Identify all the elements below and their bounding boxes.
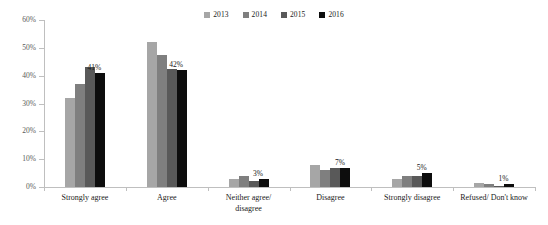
legend-swatch-2014 [243,12,249,18]
legend-label-2015: 2015 [290,11,305,19]
category-label-line: Strongly disagree [372,193,452,204]
legend-item-2016[interactable]: 2016 [319,11,343,19]
x-tick-mark [126,187,127,191]
bar-2014[interactable] [320,170,330,187]
category-label-line: Strongly agree [45,193,125,204]
legend-item-2014[interactable]: 2014 [243,11,267,19]
data-label: 7% [335,159,345,167]
legend-label-2014: 2014 [252,11,267,19]
bar-2014[interactable] [75,84,85,187]
bar-2016[interactable] [259,179,269,187]
bar-2014[interactable] [157,55,167,187]
y-tick-label: 40% [0,72,36,80]
legend-item-2015[interactable]: 2015 [281,11,305,19]
data-label: 3% [253,170,263,178]
y-tick-label: 30% [0,100,36,108]
bar-2014[interactable] [402,176,412,187]
category-label: Refused/ Don't know [453,193,535,223]
bar-cluster: 1% [473,20,516,187]
legend-label-2013: 2013 [213,11,228,19]
category-label-line: Disagree [290,193,370,204]
category-label-line: Neither agree/ [209,193,289,204]
bar-2013[interactable] [310,165,320,187]
y-tick-label: 10% [0,155,36,163]
x-tick-mark [535,187,536,191]
category-label-line: Refused/ Don't know [454,193,534,204]
bar-2015[interactable] [494,186,504,187]
data-label: 42% [169,61,183,69]
category-label: Disagree [289,193,371,223]
y-tick-label: 0% [0,183,36,191]
bar-cluster: 42% [145,20,188,187]
bar-2013[interactable] [229,179,239,187]
bar-2014[interactable] [239,176,249,187]
category-label-line: disagree [209,204,289,215]
bar-2016[interactable] [422,173,432,187]
bar-group: 7% [289,20,371,187]
bar-group: 41% [44,20,126,187]
bar-2016[interactable] [95,73,105,187]
legend-label-2016: 2016 [328,11,343,19]
bar-cluster: 3% [227,20,270,187]
bar-cluster: 41% [63,20,106,187]
bar-2015[interactable] [330,168,340,187]
bar-2015[interactable] [412,176,422,187]
y-tick-label: 60% [0,16,36,24]
bar-2015[interactable] [249,181,259,187]
data-label: 41% [88,64,102,72]
category-labels: Strongly agreeAgreeNeither agree/disagre… [44,193,535,223]
data-label: 1% [499,175,509,183]
bar-2013[interactable] [147,42,157,187]
category-label: Neither agree/disagree [208,193,290,223]
legend-swatch-2016 [319,12,325,18]
bar-2016[interactable] [504,184,514,187]
category-label-line: Agree [127,193,207,204]
x-tick-mark [208,187,209,191]
bar-group: 5% [371,20,453,187]
category-label: Strongly agree [44,193,126,223]
bar-2015[interactable] [167,69,177,187]
bar-2013[interactable] [392,179,402,187]
x-tick-mark [453,187,454,191]
bar-2015[interactable] [85,67,95,187]
x-tick-mark [44,187,45,191]
x-tick-mark [371,187,372,191]
bar-2016[interactable] [340,168,350,187]
bar-2016[interactable] [177,70,187,187]
bar-2013[interactable] [474,183,484,187]
category-label: Strongly disagree [371,193,453,223]
grouped-bar-chart: 2013 2014 2015 2016 0%10%20%30%40%50%60%… [0,0,548,225]
bar-group: 3% [208,20,290,187]
bar-group: 1% [453,20,535,187]
category-label: Agree [126,193,208,223]
y-tick-label: 20% [0,127,36,135]
bar-cluster: 5% [391,20,434,187]
data-label: 5% [417,164,427,172]
x-tick-mark [290,187,291,191]
bar-cluster: 7% [309,20,352,187]
bar-2014[interactable] [484,184,494,187]
bar-group: 42% [126,20,208,187]
chart-legend: 2013 2014 2015 2016 [0,11,548,19]
legend-swatch-2015 [281,12,287,18]
legend-item-2013[interactable]: 2013 [204,11,228,19]
bar-groups: 41%42%3%7%5%1% [44,20,535,187]
legend-swatch-2013 [204,12,210,18]
y-tick-label: 50% [0,44,36,52]
bar-2013[interactable] [65,98,75,187]
